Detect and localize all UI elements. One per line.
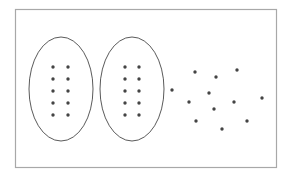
grouped-dot xyxy=(137,101,140,104)
grouped-dot xyxy=(66,89,69,92)
grouped-dot xyxy=(51,113,54,116)
grouped-dot xyxy=(123,89,126,92)
loose-dot xyxy=(245,119,248,122)
loose-dot xyxy=(187,100,190,103)
loose-dot xyxy=(214,75,217,78)
loose-dot xyxy=(170,88,173,91)
loose-dot xyxy=(207,91,210,94)
loose-dot xyxy=(260,96,263,99)
loose-dot xyxy=(212,107,215,110)
grouped-dot xyxy=(66,101,69,104)
loose-dot xyxy=(232,100,235,103)
loose-dot xyxy=(235,68,238,71)
grouped-dot xyxy=(137,89,140,92)
grouped-dot xyxy=(137,113,140,116)
grouped-dot xyxy=(123,77,126,80)
diagram-canvas xyxy=(0,0,289,177)
grouped-dot xyxy=(123,113,126,116)
grouped-dot xyxy=(66,77,69,80)
grouped-dot xyxy=(137,65,140,68)
loose-dot xyxy=(220,127,223,130)
loose-dot xyxy=(194,119,197,122)
grouped-dot xyxy=(66,65,69,68)
grouped-dot xyxy=(51,65,54,68)
diagram-frame xyxy=(16,10,277,168)
loose-dot xyxy=(193,70,196,73)
grouped-dot xyxy=(51,101,54,104)
grouped-dot xyxy=(137,77,140,80)
grouped-dot xyxy=(51,77,54,80)
grouped-dot xyxy=(123,101,126,104)
grouped-dot xyxy=(66,113,69,116)
grouped-dot xyxy=(123,65,126,68)
grouped-dot xyxy=(51,89,54,92)
